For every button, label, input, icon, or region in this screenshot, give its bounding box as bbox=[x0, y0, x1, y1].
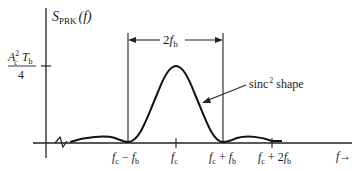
axis-break-icon bbox=[55, 137, 67, 147]
x-tick-label-fc-plus-fb: fc + fb bbox=[209, 150, 236, 166]
x-tick-label-fc-plus-2fb: fc + 2fb bbox=[258, 150, 291, 166]
annotation-leader bbox=[206, 85, 246, 101]
sinc-shape-annotation: sinc2 shape bbox=[249, 76, 304, 91]
bandwidth-label: 2fb bbox=[163, 32, 178, 49]
x-tick-label-fc-minus-fb: fc − fb bbox=[112, 150, 139, 166]
y-tick-label-denominator: 4 bbox=[18, 68, 24, 82]
x-tick-label-fc: fc bbox=[171, 150, 178, 166]
arrowhead-left-icon bbox=[128, 37, 136, 43]
psk-spectrum-diagram: SPRK(f) A2cTb 4 2fb sinc2 shape fc − fb … bbox=[0, 0, 364, 171]
annotation-arrowhead-icon bbox=[202, 97, 211, 103]
x-axis-label: f→ bbox=[336, 149, 351, 163]
y-tick-label-numerator: A2cTb bbox=[7, 49, 33, 67]
arrowhead-right-icon bbox=[215, 37, 223, 43]
y-axis-label: SPRK(f) bbox=[52, 9, 92, 26]
